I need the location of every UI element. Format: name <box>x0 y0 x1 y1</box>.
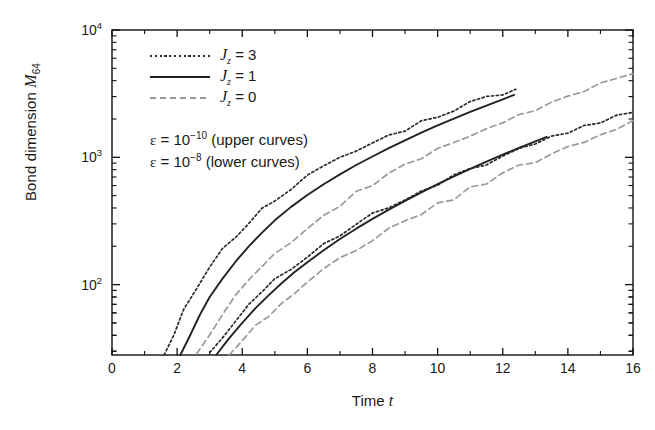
legend-label: Jz = 3 <box>220 46 256 66</box>
y-tick-label: 103 <box>58 147 102 165</box>
x-axis-title: Time t <box>112 392 633 410</box>
legend-value: = 0 <box>231 88 256 105</box>
legend-swatch <box>150 76 210 78</box>
annotation-line: ε = 10−10 (upper curves) <box>150 125 400 147</box>
x-tick-label: 14 <box>548 360 588 376</box>
x-tick-label: 6 <box>287 360 327 376</box>
legend-value: = 3 <box>231 46 256 63</box>
legend-item: Jz = 0 <box>150 88 380 109</box>
legend-label: Jz = 1 <box>220 67 256 87</box>
x-tick-label: 0 <box>92 360 132 376</box>
data-curves <box>164 74 633 355</box>
chart-figure: 104 103 102 0246810121416 Bond dimension… <box>0 0 655 430</box>
y-tick-mantissa: 10 <box>81 22 97 38</box>
x-tick-label: 12 <box>483 360 523 376</box>
legend-swatch <box>150 97 210 99</box>
y-tick-label: 104 <box>58 20 102 38</box>
y-axis-subscript: 64 <box>31 63 42 74</box>
annotation-tail: (upper curves) <box>207 131 308 148</box>
y-tick-exponent: 2 <box>97 275 102 286</box>
annotation-exponent: −10 <box>190 130 207 141</box>
y-tick-exponent: 3 <box>97 147 102 158</box>
curve-upper-dashed <box>197 74 633 354</box>
legend-value: = 1 <box>231 67 256 84</box>
x-tick-label: 16 <box>613 360 653 376</box>
y-axis-symbol: M <box>22 74 39 87</box>
legend: Jz = 3Jz = 1Jz = 0 <box>150 46 380 109</box>
annotation-block: ε = 10−10 (upper curves)ε = 10−8 (lower … <box>150 125 400 169</box>
legend-symbol: Jz <box>220 88 231 105</box>
legend-label: Jz = 0 <box>220 88 256 108</box>
annotation-line: ε = 10−8 (lower curves) <box>150 147 400 169</box>
y-tick-exponent: 4 <box>97 20 102 31</box>
y-tick-label: 102 <box>58 275 102 293</box>
legend-item: Jz = 1 <box>150 67 380 88</box>
x-tick-label: 10 <box>418 360 458 376</box>
annotation-exponent: −8 <box>190 152 201 163</box>
y-tick-mantissa: 10 <box>81 149 97 165</box>
x-tick-label: 4 <box>222 360 262 376</box>
annotation-equals: = 10 <box>156 131 190 148</box>
x-axis-symbol: t <box>389 392 393 409</box>
annotation-equals: = 10 <box>156 153 190 170</box>
x-tick-label: 8 <box>353 360 393 376</box>
legend-item: Jz = 3 <box>150 46 380 67</box>
x-tick-label: 2 <box>157 360 197 376</box>
legend-symbol: Jz <box>220 46 231 63</box>
x-axis-title-text: Time <box>352 392 389 409</box>
y-axis-title-text: Bond dimension <box>22 88 39 201</box>
y-axis-title: Bond dimension M64 <box>22 12 42 252</box>
y-tick-mantissa: 10 <box>81 276 97 292</box>
annotation-tail: (lower curves) <box>202 153 300 170</box>
legend-symbol: Jz <box>220 67 231 84</box>
legend-swatch <box>150 55 210 57</box>
